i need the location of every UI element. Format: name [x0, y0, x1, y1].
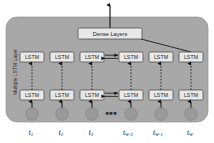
ellipsis-indicator: •••: [105, 107, 117, 119]
lstm-cell-top-5-label: LSTM: [154, 54, 168, 60]
lstm-cell-top-1-label: LSTM: [25, 54, 39, 60]
timestep-label-1: t1: [29, 128, 34, 137]
lstm-cell-top-3-label: LSTM: [85, 54, 99, 60]
input-node-3: [86, 108, 98, 120]
timestep-label-3: t3: [89, 128, 94, 137]
timestep-label-6-sub: W: [189, 132, 194, 137]
lstm-cell-bottom-4-label: LSTM: [124, 92, 138, 98]
input-node-1: [26, 108, 38, 120]
timestep-label-6: tW: [187, 128, 194, 137]
input-node-6: [185, 108, 197, 120]
timestep-label-4: tW-2: [123, 128, 134, 137]
timestep-labels: t1 t2 t3 tW-2 tW-1 tW: [29, 128, 194, 137]
lstm-cell-bottom-6-label: LSTM: [184, 92, 198, 98]
input-node-4: [125, 108, 137, 120]
timestep-label-2: t2: [59, 128, 64, 137]
lstm-cell-bottom-3-label: LSTM: [85, 92, 99, 98]
dense-layers-label: Dense Layers: [93, 31, 128, 37]
timestep-label-2-sub: 2: [61, 132, 64, 137]
diagram-canvas: Multiple LSTM Layer Dense Layers LSTM LS…: [0, 0, 214, 143]
timestep-label-5: tW-1: [153, 128, 163, 137]
lstm-cell-bottom-1-label: LSTM: [25, 92, 39, 98]
timestep-label-3-sub: 3: [91, 132, 94, 137]
lstm-cell-bottom-2-label: LSTM: [55, 92, 69, 98]
input-node-5: [155, 108, 167, 120]
input-node-2: [56, 108, 68, 120]
timestep-label-5-sub: W-1: [155, 132, 163, 137]
timestep-label-4-sub: W-2: [125, 132, 134, 137]
lstm-cell-top-4-label: LSTM: [124, 54, 138, 60]
multiple-lstm-layer-label: Multiple LSTM Layer: [12, 49, 18, 95]
lstm-cell-top-2-label: LSTM: [55, 54, 69, 60]
lstm-architecture-diagram: Multiple LSTM Layer Dense Layers LSTM LS…: [0, 0, 214, 143]
lstm-cell-top-6-label: LSTM: [184, 54, 198, 60]
side-label-text: Multiple LSTM Layer: [12, 49, 18, 95]
lstm-cell-bottom-5-label: LSTM: [154, 92, 168, 98]
timestep-label-1-sub: 1: [31, 132, 33, 137]
